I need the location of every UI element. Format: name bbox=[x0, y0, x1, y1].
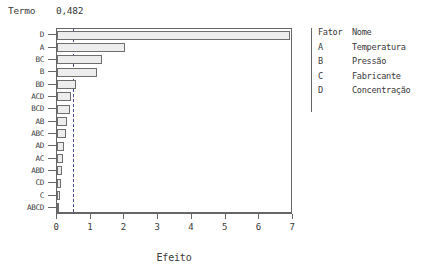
y-axis-tick-label: D bbox=[40, 30, 44, 39]
x-axis-tick-mark bbox=[123, 214, 124, 219]
y-axis-tick-label: AB bbox=[35, 116, 44, 125]
legend-row: BPressão bbox=[318, 56, 430, 71]
legend-factor-code: A bbox=[318, 42, 352, 52]
legend-factor-code: C bbox=[318, 71, 352, 81]
x-axis bbox=[56, 213, 292, 214]
legend-row: CFabricante bbox=[318, 71, 430, 86]
legend-factor-name: Pressão bbox=[352, 56, 386, 66]
y-axis-tick-label: C bbox=[40, 190, 44, 199]
x-axis-tick-label: 6 bbox=[256, 222, 261, 232]
y-axis-tick-mark bbox=[48, 71, 56, 72]
bar bbox=[57, 68, 97, 77]
bar bbox=[57, 31, 290, 40]
y-axis-tick-mark bbox=[48, 133, 56, 134]
bar bbox=[57, 142, 64, 151]
bar bbox=[57, 80, 76, 89]
bar bbox=[57, 129, 66, 138]
y-axis-tick-label: AC bbox=[35, 153, 44, 162]
bar bbox=[57, 154, 63, 163]
bar bbox=[57, 166, 62, 175]
legend-row: ATemperatura bbox=[318, 42, 430, 57]
x-axis-tick-mark bbox=[157, 214, 158, 219]
x-axis-tick-mark bbox=[56, 214, 57, 219]
y-axis-tick-mark bbox=[48, 207, 56, 208]
x-axis-title: Efeito bbox=[56, 252, 292, 263]
y-axis-tick-label: B bbox=[40, 67, 44, 76]
bar bbox=[57, 191, 60, 200]
pareto-chart-figure: Termo 0,482 DABCBBDACDBCDABABCADACABDCDC… bbox=[0, 0, 432, 277]
y-axis-tick-label: BD bbox=[35, 79, 44, 88]
bar bbox=[57, 92, 71, 101]
x-axis-tick-mark bbox=[90, 214, 91, 219]
y-axis-tick-label: ABD bbox=[31, 165, 44, 174]
bar bbox=[57, 43, 125, 52]
legend-factor-name: Temperatura bbox=[352, 42, 406, 52]
y-axis-tick-mark bbox=[48, 145, 56, 146]
x-axis-tick-label: 0 bbox=[53, 222, 58, 232]
bar bbox=[57, 117, 67, 126]
x-axis-tick-label: 5 bbox=[222, 222, 227, 232]
legend-factor-code: D bbox=[318, 85, 352, 95]
legend-header-row: Fator Nome bbox=[318, 27, 430, 42]
y-axis-tick-mark bbox=[48, 195, 56, 196]
y-axis-tick-mark bbox=[48, 182, 56, 183]
y-axis-tick-mark bbox=[48, 158, 56, 159]
y-axis-tick-mark bbox=[48, 34, 56, 35]
bar bbox=[57, 179, 61, 188]
y-axis-tick-label: ABCD bbox=[27, 202, 44, 211]
x-axis-tick-label: 7 bbox=[289, 222, 294, 232]
y-axis-tick-mark bbox=[48, 121, 56, 122]
y-axis-tick-mark bbox=[48, 59, 56, 60]
reference-line-value-label: 0,482 bbox=[56, 5, 83, 16]
y-axis-labels: DABCBBDACDBCDABABCADACABDCDCABCD bbox=[0, 28, 56, 213]
bar bbox=[57, 203, 59, 212]
termo-axis-title: Termo bbox=[8, 5, 35, 16]
bar bbox=[57, 55, 102, 64]
legend-header-code: Fator bbox=[318, 27, 352, 37]
y-axis-tick-label: BC bbox=[35, 54, 44, 63]
y-axis-tick-mark bbox=[48, 84, 56, 85]
y-axis-tick-label: ABC bbox=[31, 128, 44, 137]
y-axis-tick-mark bbox=[48, 96, 56, 97]
y-axis-tick-label: ACD bbox=[31, 91, 44, 100]
y-axis-tick-label: CD bbox=[35, 178, 44, 187]
legend-row: DConcentração bbox=[318, 85, 430, 100]
x-axis-tick-mark bbox=[292, 214, 293, 219]
legend-factor-name: Fabricante bbox=[352, 71, 401, 81]
legend-factor-code: B bbox=[318, 56, 352, 66]
y-axis-tick-label: AD bbox=[35, 141, 44, 150]
y-axis-tick-label: A bbox=[40, 42, 44, 51]
x-axis-tick-label: 3 bbox=[155, 222, 160, 232]
x-axis-tick-mark bbox=[258, 214, 259, 219]
legend-factor-name: Concentração bbox=[352, 85, 411, 95]
legend-header-name: Nome bbox=[352, 27, 372, 37]
y-axis-tick-mark bbox=[48, 170, 56, 171]
x-axis-tick-mark bbox=[225, 214, 226, 219]
y-axis-tick-mark bbox=[48, 108, 56, 109]
plot-area bbox=[56, 28, 292, 213]
y-axis-tick-mark bbox=[48, 47, 56, 48]
legend-divider bbox=[311, 28, 312, 112]
x-axis-tick-mark bbox=[191, 214, 192, 219]
x-axis-tick-label: 4 bbox=[188, 222, 193, 232]
bar bbox=[57, 105, 70, 114]
y-axis-tick-label: BCD bbox=[31, 104, 44, 113]
x-axis-tick-label: 1 bbox=[87, 222, 92, 232]
x-axis-tick-label: 2 bbox=[121, 222, 126, 232]
legend-table: Fator Nome ATemperaturaBPressãoCFabrican… bbox=[318, 27, 430, 100]
